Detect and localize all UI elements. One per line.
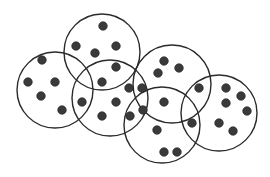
data-point — [98, 78, 107, 87]
data-point — [222, 99, 231, 108]
data-point — [237, 92, 246, 101]
data-point — [215, 119, 224, 128]
data-point — [195, 84, 204, 93]
data-point — [78, 98, 87, 107]
circles-layer — [17, 14, 257, 163]
data-point — [139, 106, 148, 115]
data-point — [51, 78, 60, 87]
data-point — [99, 22, 108, 31]
data-point — [188, 119, 197, 128]
cluster-circle-left — [17, 52, 93, 128]
data-point — [98, 112, 107, 121]
data-point — [160, 57, 169, 66]
data-point — [38, 56, 47, 65]
data-point — [154, 69, 163, 78]
data-point — [126, 112, 135, 121]
data-point — [112, 98, 121, 107]
cluster-diagram — [0, 0, 270, 177]
data-point — [243, 107, 252, 116]
data-point — [37, 92, 46, 101]
data-point — [160, 98, 169, 107]
points-layer — [24, 22, 252, 157]
data-point — [125, 84, 134, 93]
data-point — [153, 126, 162, 135]
data-point — [91, 49, 100, 58]
data-point — [175, 64, 184, 73]
data-point — [24, 78, 33, 87]
data-point — [58, 106, 67, 115]
data-point — [138, 84, 147, 93]
data-point — [160, 148, 169, 157]
data-point — [222, 84, 231, 93]
data-point — [112, 42, 121, 51]
data-point — [229, 127, 238, 136]
data-point — [173, 148, 182, 157]
data-point — [112, 63, 121, 72]
data-point — [72, 42, 81, 51]
